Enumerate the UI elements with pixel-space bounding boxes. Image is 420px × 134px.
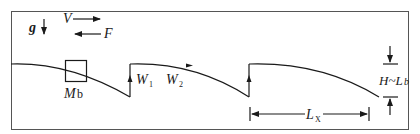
svg-text:L: L xyxy=(305,107,314,122)
force-label: F xyxy=(103,26,113,41)
frame-border xyxy=(12,12,409,130)
diagram-canvas: g V F W 1 W 2 M b xyxy=(0,0,420,134)
force-indicator: F xyxy=(75,26,113,41)
svg-text:W: W xyxy=(136,72,149,87)
svg-text:H~L: H~L xyxy=(378,73,403,88)
svg-text:b: b xyxy=(404,76,409,87)
velocity-indicator: V xyxy=(63,11,100,26)
svg-text:1: 1 xyxy=(149,80,153,89)
svg-text:2: 2 xyxy=(179,80,183,89)
length-label: L X xyxy=(305,107,321,124)
w1-label: W 1 xyxy=(136,72,153,89)
diagram-svg: g V F W 1 W 2 M b xyxy=(0,0,420,134)
svg-text:W: W xyxy=(166,72,179,87)
up-arrow-icon-1 xyxy=(128,75,133,82)
svg-text:M: M xyxy=(63,86,77,101)
wave-segment-2 xyxy=(130,64,249,97)
gravity-indicator: g xyxy=(28,19,44,35)
velocity-label: V xyxy=(63,11,73,26)
mass-label: M b xyxy=(63,86,83,101)
wave-direction-arrow-icon xyxy=(186,64,193,68)
w2-label: W 2 xyxy=(166,72,183,89)
height-label: H~L b xyxy=(378,73,409,88)
svg-text:b: b xyxy=(77,87,83,101)
svg-text:X: X xyxy=(315,115,321,124)
gravity-label: g xyxy=(28,20,36,35)
up-arrow-icon-2 xyxy=(247,75,252,82)
wave-segment-3 xyxy=(249,64,379,97)
